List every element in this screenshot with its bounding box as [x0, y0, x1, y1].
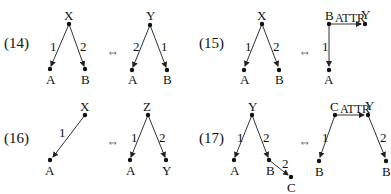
edge-label: 1: [131, 131, 138, 144]
node-label: X: [257, 9, 266, 22]
equivalence-symbol: ⇔: [107, 46, 119, 58]
node-label: A: [46, 73, 55, 86]
edge-label: 2: [159, 131, 166, 144]
node-label: Y: [162, 164, 171, 177]
node-label: C: [330, 100, 339, 113]
edge-label-attr: ATTR: [335, 12, 365, 25]
node-label: A: [324, 73, 333, 86]
edge-label: 2: [133, 40, 140, 53]
node-label: X: [64, 9, 73, 22]
edge-label-attr: ATTR: [340, 103, 370, 116]
equivalence-symbol: ⇔: [299, 46, 311, 58]
edge-label: 2: [282, 157, 289, 170]
node-label: Z: [143, 100, 151, 113]
edge-label: 2: [380, 131, 387, 144]
edge-label: 1: [237, 131, 244, 144]
node-label: Y: [248, 100, 257, 113]
equation-number-15: (15): [199, 36, 224, 51]
edge-label: 1: [322, 40, 329, 53]
node-label: B: [266, 164, 275, 177]
edge-label: 2: [80, 40, 87, 53]
node-label: B: [382, 165, 391, 178]
node-label: A: [128, 73, 137, 86]
node-label: C: [287, 181, 296, 194]
edge-16-left-x-a: [53, 115, 85, 157]
node-label: A: [230, 164, 239, 177]
node-label: X: [80, 100, 89, 113]
equation-number-17: (17): [199, 131, 224, 146]
equivalence-symbol: ⇔: [299, 136, 311, 148]
equation-number-16: (16): [4, 131, 29, 146]
edge-label: 2: [263, 131, 270, 144]
edge-label: 1: [322, 131, 329, 144]
edge-label: 1: [161, 40, 168, 53]
equation-number-14: (14): [4, 36, 29, 51]
node-label: B: [81, 73, 90, 86]
node-label: A: [126, 164, 135, 177]
equivalence-symbol: ⇔: [107, 136, 119, 148]
node-label: B: [163, 73, 172, 86]
node-label: B: [325, 9, 334, 22]
node-label: A: [45, 164, 54, 177]
node-label: B: [315, 165, 324, 178]
node-label: A: [240, 73, 249, 86]
edge-label: 2: [273, 40, 280, 53]
node-label: B: [275, 73, 284, 86]
edge-label: 1: [245, 40, 252, 53]
node-label: Y: [146, 9, 155, 22]
edge-label: 1: [59, 126, 66, 139]
edge-label: 1: [50, 40, 57, 53]
